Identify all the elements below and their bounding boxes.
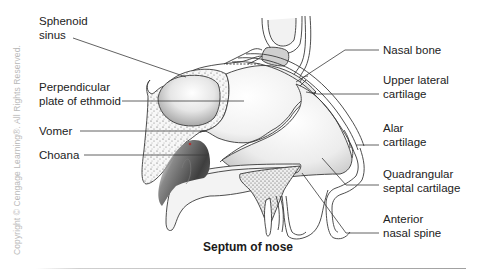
nasal-septum-diagram: Copyright © Cengage Learning®. All Right…	[0, 0, 480, 272]
label-choana: Choana	[39, 148, 79, 162]
copyright-notice: Copyright © Cengage Learning®. All Right…	[12, 45, 22, 255]
label-line: Choana	[39, 148, 79, 162]
label-line: sinus	[39, 28, 88, 42]
figure-caption: Septum of nose	[203, 240, 293, 254]
drawing-group	[142, 16, 364, 239]
label-upper-lateral-cartilage: Upper lateral cartilage	[383, 73, 449, 101]
label-vomer: Vomer	[39, 124, 72, 138]
leader-upper-lateral-cartilage	[306, 92, 379, 94]
label-line: Nasal bone	[383, 43, 441, 57]
leader-nasal-bone	[296, 50, 379, 82]
label-line: plate of ethmoid	[39, 94, 121, 108]
label-alar-cartilage: Alar cartilage	[383, 121, 426, 149]
label-sphenoid-sinus: Sphenoid sinus	[39, 14, 88, 42]
label-line: Sphenoid	[39, 14, 88, 28]
label-line: Quadrangular	[383, 167, 460, 181]
label-line: Upper lateral	[383, 73, 449, 87]
label-line: Vomer	[39, 124, 72, 138]
label-line: septal cartilage	[383, 181, 460, 195]
label-line: Anterior	[383, 212, 441, 226]
label-anterior-nasal-spine: Anterior nasal spine	[383, 212, 441, 240]
label-perpendicular-plate: Perpendicular plate of ethmoid	[39, 80, 121, 108]
label-line: Perpendicular	[39, 80, 121, 94]
leader-anterior-nasal-spine	[302, 173, 379, 233]
bottom-divider	[36, 268, 466, 269]
label-nasal-bone: Nasal bone	[383, 43, 441, 57]
label-line: cartilage	[383, 87, 449, 101]
leader-sphenoid-sinus	[73, 38, 186, 77]
label-line: Alar	[383, 121, 426, 135]
label-line: cartilage	[383, 135, 426, 149]
label-line: nasal spine	[383, 226, 441, 240]
label-quadrangular-septal-cartilage: Quadrangular septal cartilage	[383, 167, 460, 195]
